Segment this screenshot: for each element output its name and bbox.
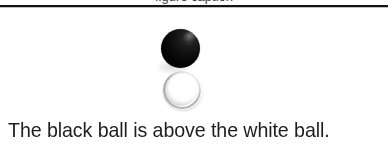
figure-page: figure caption The black ball is above t… <box>0 0 388 148</box>
white-ball-outline-ring <box>163 71 201 109</box>
white-ball-shape <box>164 72 198 106</box>
figure-caption: The black ball is above the white ball. <box>8 117 360 142</box>
black-ball-shape <box>161 29 200 68</box>
clipped-text-fragment-label: figure caption <box>0 0 388 4</box>
illustration-area <box>0 8 388 114</box>
